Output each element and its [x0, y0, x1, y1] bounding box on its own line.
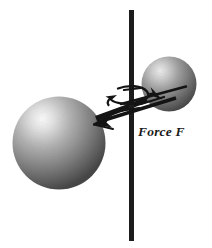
large-sphere-body: [13, 97, 106, 190]
small-sphere: [142, 57, 197, 112]
large-sphere: [13, 97, 106, 190]
figure-canvas: Force F: [0, 0, 212, 248]
force-label: Force F: [137, 124, 185, 139]
physics-figure: Force F: [0, 0, 212, 248]
small-sphere-body: [142, 57, 197, 112]
